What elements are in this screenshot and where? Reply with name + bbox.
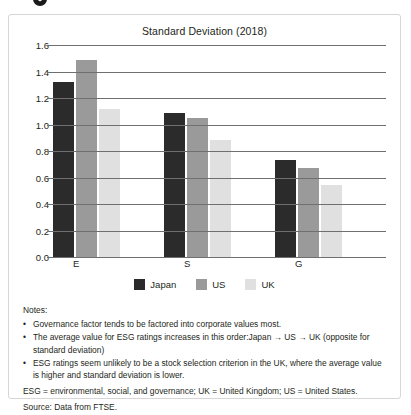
bar-japan-s[interactable]: [164, 113, 185, 257]
y-tick-mark: [47, 178, 53, 179]
chart-title: Standard Deviation (2018): [9, 25, 400, 37]
note-bullet: •Governance factor tends to be factored …: [23, 318, 386, 330]
bullet-dot-icon: •: [23, 318, 26, 330]
legend-label: Japan: [150, 279, 176, 290]
plot-area: [53, 45, 386, 257]
gridline: [53, 204, 386, 205]
abbreviations-line: ESG = environmental, social, and governa…: [23, 385, 386, 397]
gridline: [53, 151, 386, 152]
cutoff-bullet-glyph: ●: [33, 0, 47, 6]
bar-uk-s[interactable]: [210, 140, 231, 257]
source-line: Source: Data from FTSE.: [23, 401, 386, 413]
legend-item-uk[interactable]: UK: [245, 279, 274, 290]
note-bullet: •The average value for ESG ratings incre…: [23, 331, 386, 355]
bar-us-g[interactable]: [298, 168, 319, 257]
gridline: [53, 72, 386, 73]
x-tick-label-s: S: [164, 258, 275, 269]
legend-label: UK: [261, 279, 274, 290]
legend-item-us[interactable]: US: [196, 279, 225, 290]
gridline: [53, 98, 386, 99]
figure-container: Standard Deviation (2018) 0.00.20.40.60.…: [8, 14, 401, 399]
note-bullet-text: Governance factor tends to be factored i…: [33, 318, 386, 330]
note-bullet: •ESG ratings seem unlikely to be a stock…: [23, 357, 386, 381]
legend-label: US: [212, 279, 225, 290]
note-bullet-text: ESG ratings seem unlikely to be a stock …: [33, 357, 386, 381]
y-axis: 0.00.20.40.60.81.01.21.41.6: [23, 45, 49, 257]
x-axis: ESG: [53, 258, 386, 269]
x-tick-label-e: E: [53, 258, 164, 269]
gridline: [53, 45, 386, 46]
legend-swatch-us-icon: [196, 279, 207, 290]
bar-japan-g[interactable]: [275, 160, 296, 257]
y-tick-mark: [47, 45, 53, 46]
y-tick-mark: [47, 72, 53, 73]
bullet-dot-icon: •: [23, 331, 26, 355]
legend-swatch-japan-icon: [134, 279, 145, 290]
bar-us-e[interactable]: [76, 60, 97, 257]
legend-item-japan[interactable]: Japan: [134, 279, 176, 290]
gridline: [53, 125, 386, 126]
y-tick-mark: [47, 204, 53, 205]
chart-plot: 0.00.20.40.60.81.01.21.41.6 ESG: [23, 45, 386, 257]
bullet-dot-icon: •: [23, 357, 26, 381]
bar-uk-g[interactable]: [321, 185, 342, 257]
y-tick-mark: [47, 125, 53, 126]
note-bullet-text: The average value for ESG ratings increa…: [33, 331, 386, 355]
y-tick-mark: [47, 231, 53, 232]
notes-section: Notes: •Governance factor tends to be fa…: [23, 304, 386, 414]
chart-legend: JapanUSUK: [9, 279, 400, 290]
gridline: [53, 231, 386, 232]
bar-us-s[interactable]: [187, 118, 208, 257]
y-tick-mark: [47, 151, 53, 152]
notes-heading: Notes:: [23, 304, 386, 316]
bar-uk-e[interactable]: [99, 109, 120, 257]
y-tick-mark: [47, 98, 53, 99]
x-tick-label-g: G: [275, 258, 386, 269]
notes-bullet-list: •Governance factor tends to be factored …: [23, 318, 386, 381]
gridline: [53, 178, 386, 179]
legend-swatch-uk-icon: [245, 279, 256, 290]
